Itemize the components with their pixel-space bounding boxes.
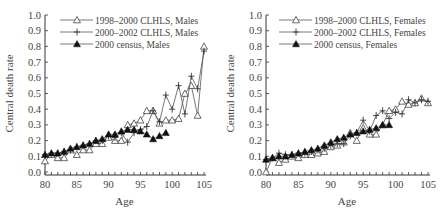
- y-tick-label: 0.7: [249, 57, 262, 68]
- data-point: [162, 129, 169, 135]
- y-tick-label: 0.1: [28, 151, 41, 162]
- figure: 0.00.10.20.30.40.50.60.70.80.91.08085909…: [0, 0, 447, 213]
- y-tick-label: 0.4: [249, 104, 263, 115]
- data-point: [399, 98, 406, 104]
- data-point: [406, 96, 412, 103]
- y-tick-label: 0.3: [28, 119, 41, 130]
- legend-marker: [293, 29, 299, 36]
- x-tick-label: 95: [358, 179, 369, 190]
- y-tick-label: 0.8: [249, 41, 262, 52]
- y-tick-label: 1.0: [28, 10, 41, 21]
- data-point: [419, 96, 425, 103]
- y-tick-label: 0.5: [28, 88, 41, 99]
- series-line: [266, 100, 428, 160]
- legend-marker: [74, 29, 80, 36]
- series-open-triangle: [263, 95, 432, 175]
- data-point: [321, 142, 328, 148]
- data-point: [163, 92, 169, 99]
- data-point: [373, 112, 379, 119]
- data-point: [194, 112, 201, 118]
- data-point: [399, 110, 405, 117]
- x-tick-label: 100: [388, 179, 404, 190]
- y-tick-label: 0.9: [28, 25, 41, 36]
- x-tick-label: 80: [40, 179, 51, 190]
- y-tick-label: 0.9: [249, 25, 262, 36]
- x-tick-label: 90: [326, 179, 337, 190]
- data-point: [73, 151, 80, 157]
- data-point: [327, 139, 334, 145]
- series-plus: [42, 48, 207, 159]
- y-tick-label: 0.2: [28, 135, 41, 146]
- legend-label: 1998–2000 CLHLS, Males: [95, 16, 198, 26]
- y-tick-label: 0.6: [28, 72, 41, 83]
- y-tick-label: 0.7: [28, 57, 41, 68]
- legend: 1998–2000 CLHLS, Males2000–2002 CLHLS, M…: [60, 16, 198, 50]
- data-point: [275, 159, 282, 165]
- series-line: [45, 46, 204, 161]
- x-axis-label: Age: [115, 195, 133, 207]
- data-point: [137, 117, 144, 123]
- data-point: [156, 132, 163, 138]
- y-tick-label: 0.4: [28, 104, 42, 115]
- series-filled-triangle: [42, 126, 170, 157]
- series-filled-triangle: [263, 121, 393, 162]
- data-point: [143, 131, 150, 137]
- data-point: [188, 73, 194, 80]
- legend-label: 2000–2002 CLHLS, Males: [95, 28, 198, 38]
- data-point: [175, 115, 182, 121]
- chart-females: 0.00.10.20.30.40.50.60.70.80.91.08085909…: [224, 10, 436, 208]
- data-point: [182, 110, 188, 117]
- data-point: [188, 82, 195, 88]
- y-axis-label: Central death rate: [3, 54, 15, 132]
- data-point: [169, 106, 175, 113]
- y-tick-label: 1.0: [249, 10, 262, 21]
- data-point: [340, 134, 347, 140]
- legend-label: 1998–2000 CLHLS, Females: [314, 16, 426, 26]
- data-point: [360, 117, 366, 124]
- y-tick-label: 0.3: [249, 119, 262, 130]
- x-tick-label: 85: [293, 179, 304, 190]
- y-axis-label: Central death rate: [224, 54, 236, 132]
- data-point: [176, 82, 182, 89]
- y-tick-label: 0.0: [249, 167, 262, 178]
- x-axis-label: Age: [338, 195, 356, 207]
- y-tick-label: 0.2: [249, 135, 262, 146]
- x-tick-label: 80: [261, 179, 272, 190]
- y-tick-label: 0.1: [249, 151, 262, 162]
- y-tick-label: 0.5: [249, 88, 262, 99]
- series-line: [45, 51, 204, 155]
- data-point: [144, 123, 150, 130]
- chart-males: 0.00.10.20.30.40.50.60.70.80.91.08085909…: [3, 10, 212, 208]
- legend-label: 2000 census, Females: [314, 40, 397, 50]
- legend-label: 2000–2002 CLHLS, Females: [314, 28, 426, 38]
- x-tick-label: 100: [164, 179, 180, 190]
- data-point: [150, 136, 157, 142]
- x-tick-label: 85: [72, 179, 83, 190]
- x-tick-label: 95: [135, 179, 146, 190]
- y-tick-label: 0.0: [28, 167, 41, 178]
- x-tick-label: 105: [420, 179, 436, 190]
- data-point: [373, 125, 380, 131]
- legend-label: 2000 census, Males: [95, 40, 170, 50]
- y-tick-label: 0.6: [249, 72, 262, 83]
- x-tick-label: 105: [196, 179, 212, 190]
- legend: 1998–2000 CLHLS, Females2000–2002 CLHLS,…: [279, 16, 426, 50]
- data-point: [314, 145, 321, 151]
- x-tick-label: 90: [103, 179, 114, 190]
- y-tick-label: 0.8: [28, 41, 41, 52]
- series-plus: [263, 96, 431, 163]
